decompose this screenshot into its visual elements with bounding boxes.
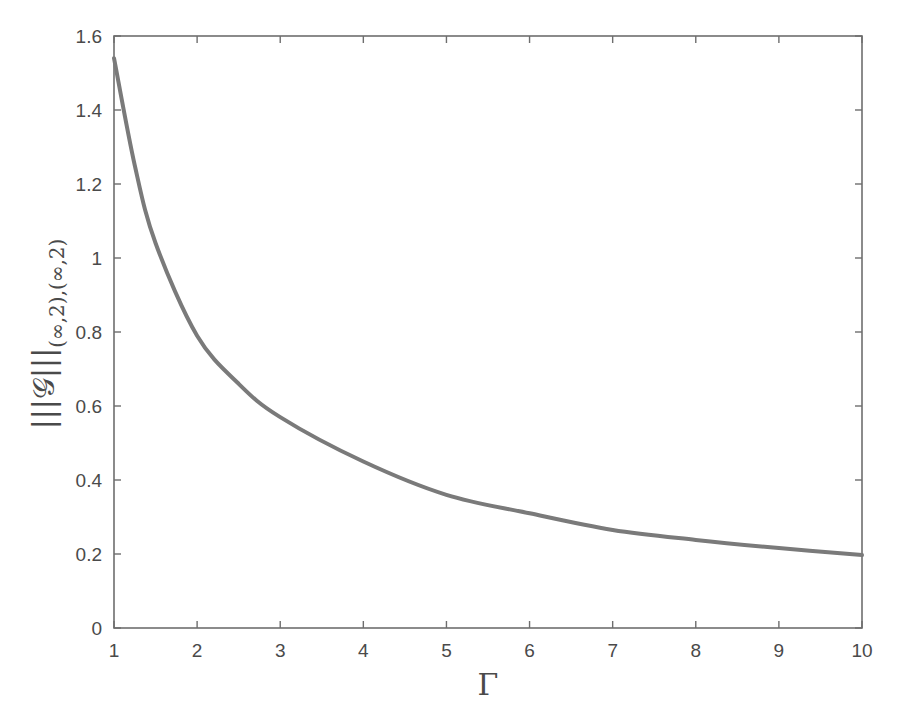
data-line — [114, 58, 862, 555]
x-tick-label: 1 — [109, 640, 120, 661]
axes-box — [114, 36, 862, 628]
y-axis-label: |||𝒢|||(∞,2),(∞,2) — [26, 239, 69, 430]
y-tick-label: 0 — [91, 618, 102, 639]
svg-text:|||𝒢|||(∞,2),(∞,2): |||𝒢|||(∞,2),(∞,2) — [26, 239, 69, 430]
line-chart: 12345678910 00.20.40.60.811.21.41.6 Γ ||… — [0, 0, 901, 724]
y-axis-label-main: |||𝒢||| — [26, 348, 61, 430]
x-tick-label: 2 — [192, 640, 203, 661]
y-tick-label: 0.2 — [76, 544, 102, 565]
y-axis-label-subscript: (∞,2),(∞,2) — [45, 239, 69, 348]
y-tick-label: 0.8 — [76, 322, 102, 343]
y-tick-label: 0.4 — [76, 470, 103, 491]
x-tick-label: 7 — [607, 640, 618, 661]
y-tick-label: 0.6 — [76, 396, 102, 417]
x-tick-label: 3 — [275, 640, 286, 661]
x-tick-label: 6 — [524, 640, 535, 661]
x-tick-label: 5 — [441, 640, 452, 661]
y-tick-label: 1.2 — [76, 174, 102, 195]
y-tick-label: 1.4 — [76, 100, 103, 121]
x-tick-label: 8 — [690, 640, 701, 661]
x-axis-label: Γ — [478, 667, 499, 702]
x-tick-label: 4 — [358, 640, 369, 661]
x-axis-ticks: 12345678910 — [109, 36, 873, 661]
x-tick-label: 10 — [851, 640, 872, 661]
x-tick-label: 9 — [774, 640, 785, 661]
y-tick-label: 1.6 — [76, 26, 102, 47]
plot-area: 12345678910 00.20.40.60.811.21.41.6 — [76, 26, 873, 661]
y-tick-label: 1 — [91, 248, 102, 269]
